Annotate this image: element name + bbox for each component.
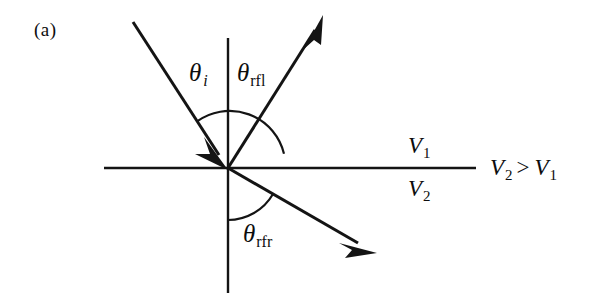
theta-incident-subscript: i [203, 72, 207, 89]
panel-letter-label: (a) [34, 20, 57, 39]
velocity-upper-subscript: 1 [423, 145, 431, 161]
theta-reflected-symbol: θ [237, 59, 249, 86]
inequality-left-symbol: V [490, 155, 504, 180]
theta-refracted-label: θrfr [243, 221, 272, 250]
theta-reflected-label: θrfl [237, 60, 265, 89]
refraction-angle-arc [228, 194, 273, 220]
velocity-lower-subscript: 2 [423, 188, 431, 204]
inequality-operator: > [517, 155, 530, 180]
velocity-upper-label: V1 [408, 134, 431, 161]
velocity-upper-symbol: V [408, 133, 422, 158]
velocity-lower-symbol: V [408, 176, 422, 201]
refracted-ray-arrowhead [339, 243, 377, 258]
velocity-lower-label: V2 [408, 177, 431, 204]
theta-refracted-subscript: rfr [256, 233, 272, 250]
inequality-right-subscript: 1 [550, 167, 558, 183]
ray-diagram-canvas [0, 0, 596, 304]
velocity-inequality-label: V2>V1 [490, 156, 557, 183]
theta-incident-label: θi [189, 60, 208, 89]
theta-incident-symbol: θ [189, 59, 201, 86]
inequality-left-subscript: 2 [505, 167, 513, 183]
reflected-ray-arrowhead [304, 15, 323, 49]
inequality-right-symbol: V [535, 155, 549, 180]
refraction-reflection-diagram: (a) θi θrfl θrfr V1 V2 V2>V1 [0, 0, 596, 304]
reflected-ray [228, 30, 315, 168]
theta-refracted-symbol: θ [243, 220, 255, 247]
theta-reflected-subscript: rfl [250, 72, 265, 89]
